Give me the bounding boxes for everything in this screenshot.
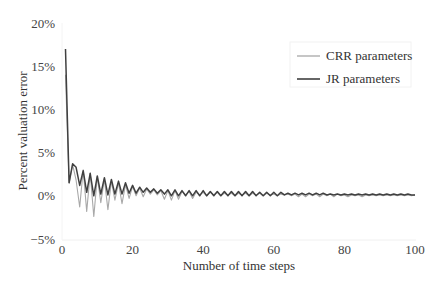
legend: CRR parameters JR parameters — [290, 42, 412, 87]
legend-label-crr: CRR parameters — [326, 48, 412, 63]
x-tick-label: 60 — [267, 242, 280, 257]
x-tick-label: 20 — [126, 242, 139, 257]
x-tick-label: 100 — [405, 242, 425, 257]
x-axis-title: Number of time steps — [183, 258, 295, 273]
x-axis-ticks: 020406080100 — [59, 242, 425, 257]
x-tick-label: 0 — [59, 242, 66, 257]
chart: −5%0%5%10%15%20% 020406080100 Number of … — [0, 0, 446, 288]
x-tick-label: 80 — [338, 242, 351, 257]
y-tick-label: 10% — [31, 102, 55, 117]
y-tick-label: 15% — [31, 59, 55, 74]
y-axis-ticks: −5%0%5%10%15%20% — [30, 16, 55, 247]
legend-label-jr: JR parameters — [326, 71, 400, 86]
y-tick-label: 20% — [31, 16, 55, 31]
y-tick-label: 5% — [38, 145, 56, 160]
y-axis-title: Percent valuation error — [15, 71, 30, 191]
y-tick-label: −5% — [30, 232, 55, 247]
y-tick-label: 0% — [38, 188, 56, 203]
x-tick-label: 40 — [197, 242, 210, 257]
